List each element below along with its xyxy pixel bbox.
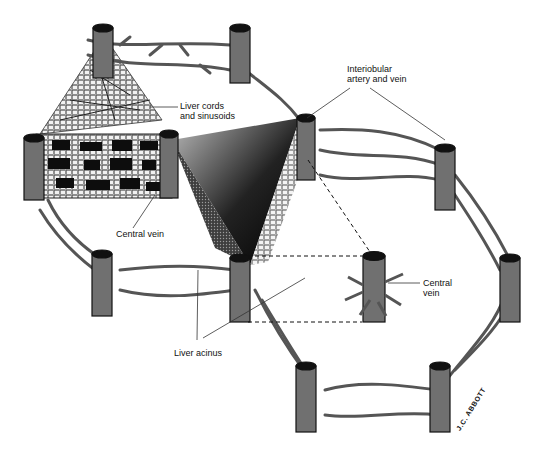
vessel-far-right-upper <box>435 144 455 210</box>
vessel-mid-left <box>24 134 44 200</box>
vessel-top-left <box>93 24 113 78</box>
acinus-pyramid <box>172 118 312 265</box>
label-interlobular-artery-and-vein: Interiobular artery and vein <box>347 64 407 84</box>
vessel-central-isolated <box>345 252 403 323</box>
vessel-left-lower <box>92 250 112 316</box>
label-central-vein-right: Central vein <box>423 278 452 298</box>
label-liver-acinus: Liver acinus <box>174 348 222 358</box>
vessel-mid-center <box>160 130 178 198</box>
vessel-bottom-left <box>296 362 316 432</box>
vessel-far-right-lower <box>500 254 520 322</box>
label-liver-cords-and-sinusoids: Liver cords and sinusoids <box>180 101 235 121</box>
vessel-top-mid <box>230 24 250 83</box>
vessel-bottom-right <box>430 362 450 432</box>
label-central-vein-left: Central vein <box>116 229 164 239</box>
vessel-right-upper <box>297 114 315 180</box>
sinusoid-block <box>36 134 172 198</box>
liver-lobule-diagram <box>0 0 548 458</box>
